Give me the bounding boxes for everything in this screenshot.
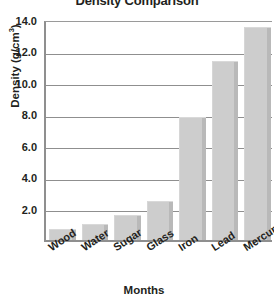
y-axis-tick-label: 14.0 <box>3 16 37 27</box>
y-axis-tick-label: 6.0 <box>3 142 37 153</box>
bar <box>244 27 271 240</box>
bar <box>179 117 206 240</box>
bars-group <box>46 22 272 240</box>
bar <box>212 61 239 240</box>
density-comparison-chart: Density Comparison Density (g/cm3) 2.04.… <box>0 0 274 296</box>
x-axis-title: Months <box>44 284 244 296</box>
y-axis-tick-label: 10.0 <box>3 79 37 90</box>
y-axis-tick-label: 2.0 <box>3 205 37 216</box>
bar-shadow <box>202 118 206 240</box>
bar-shadow <box>234 62 238 240</box>
plot-area <box>44 21 272 242</box>
y-axis-tick-label: 8.0 <box>3 110 37 121</box>
bar-shadow <box>267 28 271 240</box>
y-axis-tick-labels: 2.04.06.08.010.012.014.0 <box>0 0 37 296</box>
chart-title: Density Comparison <box>0 0 274 8</box>
y-axis-tick-label: 4.0 <box>3 173 37 184</box>
y-axis-tick-label: 12.0 <box>3 47 37 58</box>
